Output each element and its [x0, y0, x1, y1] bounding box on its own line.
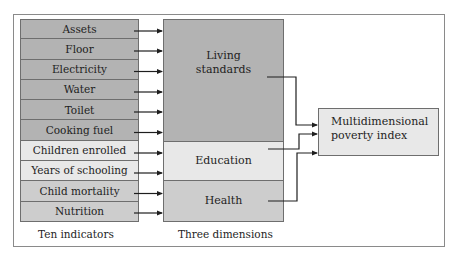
- arrow-icon: [267, 77, 317, 125]
- arrow-icon: [268, 134, 317, 149]
- arrow-icon: [268, 153, 317, 201]
- connector-arrows: [0, 0, 456, 259]
